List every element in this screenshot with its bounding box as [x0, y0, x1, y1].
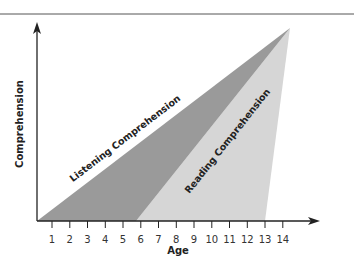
comprehension-chart: 1 2 3 4 5 6 7 8 9 10 11 12 13 14 Age Com… [0, 0, 354, 276]
tick-label: 11 [223, 234, 236, 245]
tick-label: 9 [191, 234, 197, 245]
tick-label: 14 [276, 234, 289, 245]
tick-label: 2 [67, 234, 73, 245]
x-ticks [52, 221, 283, 228]
tick-label: 6 [138, 234, 144, 245]
tick-label: 5 [120, 234, 126, 245]
x-tick-labels: 1 2 3 4 5 6 7 8 9 10 11 12 13 14 [49, 234, 289, 245]
tick-label: 12 [241, 234, 254, 245]
tick-label: 7 [155, 234, 161, 245]
x-axis-label: Age [167, 245, 189, 256]
tick-label: 8 [173, 234, 179, 245]
tick-label: 1 [49, 234, 55, 245]
tick-label: 4 [102, 234, 108, 245]
tick-label: 3 [84, 234, 90, 245]
tick-label: 10 [205, 234, 218, 245]
y-axis-label: Comprehension [14, 80, 25, 168]
tick-label: 13 [259, 234, 272, 245]
